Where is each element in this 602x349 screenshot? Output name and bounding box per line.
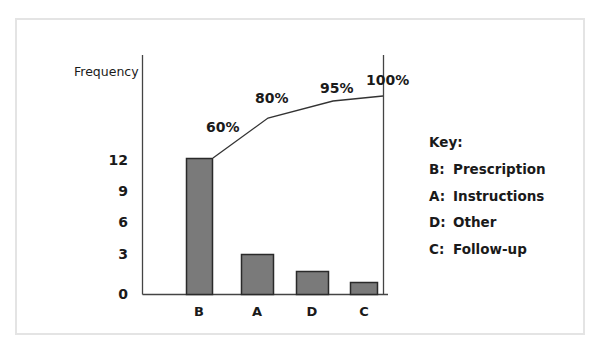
bar-C bbox=[351, 283, 378, 295]
legend-entry-D: D:Other bbox=[429, 214, 496, 230]
x-label-D: D bbox=[297, 304, 327, 319]
legend-code: C: bbox=[429, 241, 453, 257]
y-tick-0: 0 bbox=[98, 286, 128, 302]
legend-code: D: bbox=[429, 214, 453, 230]
x-label-B: B bbox=[184, 304, 214, 319]
bar-B bbox=[187, 159, 213, 295]
legend-label: Follow-up bbox=[453, 241, 527, 257]
y-axis-label: Frequency bbox=[74, 64, 139, 79]
legend-label: Other bbox=[453, 214, 496, 230]
bar-A bbox=[242, 255, 274, 295]
x-label-C: C bbox=[349, 304, 379, 319]
y-tick-9: 9 bbox=[98, 183, 128, 199]
cumulative-label-95: 95% bbox=[320, 80, 354, 96]
legend-code: B: bbox=[429, 161, 453, 177]
legend-code: A: bbox=[429, 188, 453, 204]
cumulative-label-100: 100% bbox=[366, 72, 409, 88]
x-label-A: A bbox=[242, 304, 272, 319]
legend-entry-A: A:Instructions bbox=[429, 188, 544, 204]
y-tick-3: 3 bbox=[98, 246, 128, 262]
bar-D bbox=[297, 272, 329, 295]
cumulative-label-60: 60% bbox=[206, 119, 240, 135]
legend-entry-B: B:Prescription bbox=[429, 161, 546, 177]
legend-label: Instructions bbox=[453, 188, 544, 204]
cumulative-label-80: 80% bbox=[255, 90, 289, 106]
legend-entry-C: C:Follow-up bbox=[429, 241, 527, 257]
y-tick-6: 6 bbox=[98, 214, 128, 230]
y-tick-12: 12 bbox=[98, 152, 128, 168]
legend-title: Key: bbox=[429, 134, 463, 150]
legend-label: Prescription bbox=[453, 161, 546, 177]
